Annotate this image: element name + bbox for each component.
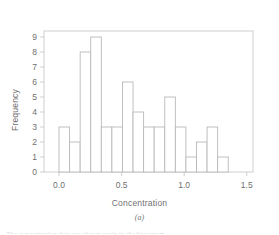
histogram-bar [196, 142, 207, 172]
histogram-bar [207, 127, 218, 172]
y-tick-label: 1 [23, 152, 37, 162]
figure-subcaption: (a) [0, 213, 279, 222]
y-tick-label: 5 [23, 92, 37, 102]
histogram-bar [144, 127, 155, 172]
x-tick-label: 0.5 [107, 180, 137, 190]
x-tick-label: 1.0 [169, 180, 199, 190]
y-tick-label: 4 [23, 107, 37, 117]
histogram-bar [133, 112, 144, 172]
cut-off-body-text: The concentration data are shown again i… [6, 230, 273, 234]
x-axis-label: Concentration [0, 198, 279, 208]
histogram-bar [218, 157, 229, 172]
histogram-bars [59, 37, 228, 172]
y-tick-label: 3 [23, 122, 37, 132]
histogram-bar [80, 52, 91, 172]
histogram-bar [101, 127, 112, 172]
histogram-bar [186, 157, 197, 172]
x-axis-ticks [59, 172, 247, 176]
histogram-bar [70, 142, 81, 172]
histogram-bar [165, 97, 176, 172]
y-axis-label: Frequency [10, 75, 20, 145]
histogram-bar [112, 127, 123, 172]
histogram-bar [154, 127, 165, 172]
y-tick-label: 8 [23, 47, 37, 57]
y-axis-ticks [40, 37, 44, 172]
y-tick-label: 7 [23, 62, 37, 72]
y-tick-label: 0 [23, 167, 37, 177]
x-tick-label: 0.0 [44, 180, 74, 190]
y-tick-label: 9 [23, 32, 37, 42]
histogram-bar [59, 127, 70, 172]
histogram-figure: 01234567890.00.51.01.5 Frequency Concent… [0, 0, 279, 235]
histogram-bar [175, 127, 186, 172]
histogram-bar [122, 82, 133, 172]
y-tick-label: 6 [23, 77, 37, 87]
x-tick-label: 1.5 [232, 180, 262, 190]
histogram-bar [91, 37, 102, 172]
y-tick-label: 2 [23, 137, 37, 147]
